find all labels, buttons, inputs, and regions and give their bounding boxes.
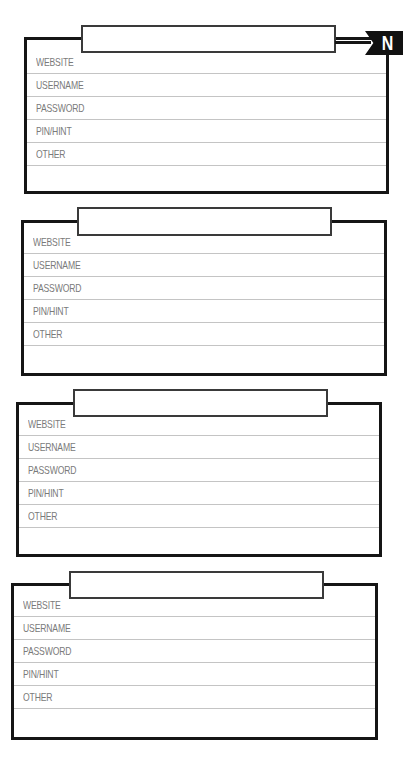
field-label: WEBSITE bbox=[36, 56, 74, 68]
field-row-blank[interactable] bbox=[14, 709, 375, 732]
password-card-1: WEBSITE USERNAME PASSWORD PIN/HINT OTHER bbox=[24, 37, 389, 194]
field-label: OTHER bbox=[36, 148, 65, 160]
badge-letter: N bbox=[375, 31, 393, 55]
field-row-pin-hint[interactable]: PIN/HINT bbox=[14, 663, 375, 686]
field-label: PASSWORD bbox=[36, 102, 84, 114]
field-label: WEBSITE bbox=[33, 236, 71, 248]
field-row-password[interactable]: PASSWORD bbox=[24, 277, 384, 300]
field-label: PASSWORD bbox=[23, 645, 71, 657]
field-label: USERNAME bbox=[33, 259, 80, 271]
field-row-password[interactable]: PASSWORD bbox=[14, 640, 375, 663]
field-label: PIN/HINT bbox=[28, 487, 64, 499]
field-label: PASSWORD bbox=[33, 282, 81, 294]
field-row-other[interactable]: OTHER bbox=[14, 686, 375, 709]
field-row-pin-hint[interactable]: PIN/HINT bbox=[24, 300, 384, 323]
field-label: WEBSITE bbox=[28, 418, 66, 430]
field-row-username[interactable]: USERNAME bbox=[27, 74, 386, 97]
field-label: PIN/HINT bbox=[23, 668, 59, 680]
password-card-3: WEBSITE USERNAME PASSWORD PIN/HINT OTHER bbox=[16, 402, 382, 557]
field-row-pin-hint[interactable]: PIN/HINT bbox=[19, 482, 379, 505]
field-row-pin-hint[interactable]: PIN/HINT bbox=[27, 120, 386, 143]
field-label: PASSWORD bbox=[28, 464, 76, 476]
field-row-other[interactable]: OTHER bbox=[27, 143, 386, 166]
field-row-password[interactable]: PASSWORD bbox=[27, 97, 386, 120]
card-title-tab-2[interactable] bbox=[77, 207, 332, 236]
field-label: USERNAME bbox=[23, 622, 70, 634]
field-label: PIN/HINT bbox=[33, 305, 69, 317]
field-row-username[interactable]: USERNAME bbox=[19, 436, 379, 459]
field-row-other[interactable]: OTHER bbox=[19, 505, 379, 528]
tab-connector-line bbox=[335, 41, 371, 44]
card-title-tab-4[interactable] bbox=[69, 571, 324, 599]
field-list: WEBSITE USERNAME PASSWORD PIN/HINT OTHER bbox=[14, 594, 375, 732]
field-label: PIN/HINT bbox=[36, 125, 72, 137]
field-row-username[interactable]: USERNAME bbox=[24, 254, 384, 277]
field-row-blank[interactable] bbox=[24, 346, 384, 369]
field-row-website[interactable]: WEBSITE bbox=[27, 51, 386, 74]
field-label: USERNAME bbox=[28, 441, 75, 453]
field-label: OTHER bbox=[33, 328, 62, 340]
field-row-password[interactable]: PASSWORD bbox=[19, 459, 379, 482]
field-list: WEBSITE USERNAME PASSWORD PIN/HINT OTHER bbox=[27, 51, 386, 189]
card-title-tab-3[interactable] bbox=[73, 389, 328, 417]
field-label: USERNAME bbox=[36, 79, 83, 91]
password-card-4: WEBSITE USERNAME PASSWORD PIN/HINT OTHER bbox=[11, 583, 378, 740]
field-list: WEBSITE USERNAME PASSWORD PIN/HINT OTHER bbox=[24, 231, 384, 369]
field-row-username[interactable]: USERNAME bbox=[14, 617, 375, 640]
field-row-other[interactable]: OTHER bbox=[24, 323, 384, 346]
field-row-blank[interactable] bbox=[19, 528, 379, 551]
password-card-2: WEBSITE USERNAME PASSWORD PIN/HINT OTHER bbox=[21, 220, 387, 376]
card-title-tab-1[interactable] bbox=[81, 25, 336, 53]
field-label: OTHER bbox=[28, 510, 57, 522]
field-row-blank[interactable] bbox=[27, 166, 386, 189]
field-list: WEBSITE USERNAME PASSWORD PIN/HINT OTHER bbox=[19, 413, 379, 551]
field-label: WEBSITE bbox=[23, 599, 61, 611]
field-label: OTHER bbox=[23, 691, 52, 703]
